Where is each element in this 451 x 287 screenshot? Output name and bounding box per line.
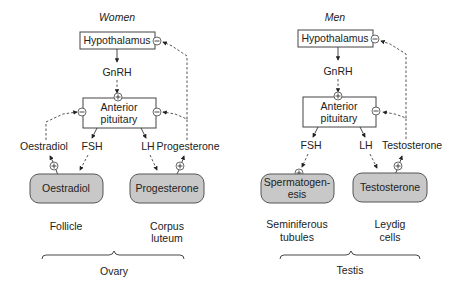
women-progesterone-pituitary-feedback-arrow (163, 112, 187, 140)
men-hypothalamus-label: Hypothalamus (301, 32, 368, 44)
women-ovary-label: Ovary (100, 265, 129, 277)
women-panel: Women Hypothalamus GnRH Anterior pituita… (20, 11, 220, 277)
women-progesterone-plus-icon (176, 162, 184, 170)
men-title: Men (325, 11, 346, 23)
women-lh-label: LH (141, 140, 154, 152)
men-pituitary-label-1: Anterior (321, 100, 358, 112)
women-oestradiol-label: Oestradiol (20, 140, 68, 152)
men-testis-label: Testis (337, 264, 364, 276)
women-pituitary-minus-right-icon (153, 108, 161, 116)
women-lh-to-corpus-arrow (150, 155, 157, 170)
women-progesterone-label: Progesterone (156, 140, 219, 152)
men-fsh-label: FSH (301, 139, 322, 151)
men-fsh-to-tubules-arrow (302, 154, 308, 167)
hormone-feedback-diagram: Women Hypothalamus GnRH Anterior pituita… (0, 0, 451, 287)
men-seminiferous-label-2: tubules (280, 231, 314, 243)
women-oestradiol-box-label: Oestradiol (42, 182, 90, 194)
men-pituitary-plus-icon (334, 92, 342, 100)
men-testosterone-release-arrow (400, 156, 402, 162)
men-pituitary-minus-icon (372, 107, 380, 115)
men-testosterone-plus-icon (394, 162, 402, 170)
women-progesterone-hypothalamus-feedback-arrow (163, 42, 187, 119)
men-spermatogenesis-label-2: esis (288, 188, 307, 200)
women-title: Women (99, 11, 135, 23)
women-hypothalamus-label: Hypothalamus (83, 34, 150, 46)
women-progesterone-box-label: Progesterone (135, 182, 198, 194)
women-oestradiol-feedback-arrow (46, 112, 77, 140)
women-oestradiol-release-arrow (50, 156, 53, 162)
women-ovary-brace (42, 251, 184, 259)
men-testosterone-pituitary-feedback-arrow (383, 112, 406, 139)
women-pituitary-plus-icon (114, 93, 122, 101)
men-lh-label: LH (359, 139, 372, 151)
women-corpus-label-1: Corpus (150, 220, 184, 232)
women-pituitary-minus-left-icon (78, 108, 86, 116)
men-pituitary-to-fsh-arrow (313, 127, 318, 137)
women-corpus-label-2: luteum (151, 232, 183, 244)
women-pituitary-label-2: pituitary (101, 113, 139, 125)
women-follicle-label: Follicle (50, 220, 83, 232)
women-pituitary-to-fsh-arrow (92, 128, 97, 138)
women-fsh-label: FSH (82, 140, 103, 152)
men-spermatogenesis-label-1: Spermatogen- (264, 176, 331, 188)
women-pituitary-to-lh-arrow (141, 128, 146, 138)
women-gnrh-label: GnRH (102, 66, 131, 78)
men-testosterone-label: Testosterone (382, 139, 442, 151)
men-leydig-label-2: cells (379, 231, 400, 243)
men-panel: Men Hypothalamus GnRH Anterior pituitary… (261, 11, 442, 276)
men-pituitary-label-2: pituitary (321, 112, 359, 124)
men-seminiferous-label-1: Seminiferous (266, 218, 327, 230)
women-progesterone-release-arrow (182, 156, 184, 162)
men-pituitary-to-lh-arrow (360, 127, 365, 137)
women-oestradiol-plus-icon (50, 162, 58, 170)
men-hypothalamus-minus-icon (371, 35, 379, 43)
women-fsh-to-follicle-arrow (80, 155, 88, 170)
men-lh-to-leydig-arrow (370, 154, 377, 168)
men-leydig-label-1: Leydig (375, 218, 406, 230)
men-gnrh-label: GnRH (323, 65, 352, 77)
women-hypothalamus-minus-icon (153, 37, 161, 45)
men-testosterone-hypothalamus-feedback-arrow (381, 41, 406, 118)
men-testosterone-box-label: Testosterone (360, 181, 420, 193)
men-testis-brace (280, 251, 420, 259)
women-pituitary-label-1: Anterior (101, 101, 138, 113)
